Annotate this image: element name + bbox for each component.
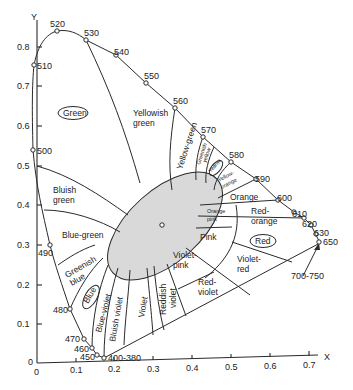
x-tick-0.7: 0.7 (303, 360, 316, 370)
region-pink: Pink (200, 232, 217, 242)
region-red-violet-2: violet (198, 287, 218, 297)
wl-550: 550 (144, 71, 159, 81)
region-bluish-green-1: Bluish (53, 185, 76, 195)
wl-600: 600 (277, 193, 292, 203)
region-red-violet-1: Red- (198, 277, 217, 287)
wl-490: 490 (38, 248, 53, 258)
region-violet-pink-2: pink (173, 260, 189, 270)
wl-560: 560 (173, 96, 188, 106)
wl-580: 580 (229, 150, 244, 160)
region-red-orange-1: Red- (251, 206, 270, 216)
region-orange: Orange (230, 192, 259, 202)
region-violet-pink-1: Violet- (173, 250, 197, 260)
x-axis-label: X (324, 352, 330, 362)
y-tick-0.8: 0.8 (17, 42, 30, 52)
y-tick-0.5: 0.5 (17, 161, 30, 171)
x-tick-0.1: 0.1 (70, 365, 83, 375)
x-tick-0.6: 0.6 (264, 361, 277, 371)
region-bluish-green-2: green (53, 195, 75, 205)
wl-610: 610 (292, 209, 307, 219)
wl-540: 540 (114, 47, 129, 57)
x-tick-0.2: 0.2 (108, 364, 121, 374)
region-yellowish-green-2: green (133, 118, 155, 128)
y-axis-label: Y (31, 12, 37, 22)
region-violet: Violet (136, 295, 150, 318)
wl-520: 520 (50, 19, 65, 29)
y-tick-0.3: 0.3 (17, 240, 30, 250)
white-point-marker (160, 223, 164, 227)
y-tick-0.7: 0.7 (17, 81, 30, 91)
wl-530: 530 (84, 28, 99, 38)
y-tick-0: 0 (28, 357, 33, 367)
region-red: Red (255, 236, 271, 246)
wl-480: 480 (53, 305, 68, 315)
x-tick-0: 0 (34, 367, 39, 377)
wl-700-750: 700-750 (291, 271, 324, 281)
region-blue: Blue (81, 285, 98, 305)
region-violet-red-1: Violet- (237, 254, 261, 264)
y-tick-0.4: 0.4 (17, 200, 30, 210)
wl-570: 570 (201, 125, 216, 135)
wl-380: 400-380 (108, 353, 141, 363)
wl-460: 460 (74, 344, 89, 354)
y-tick-0.6: 0.6 (17, 121, 30, 131)
region-violet-red-2: red (237, 264, 250, 274)
region-orange-pink-1: Orange (207, 208, 225, 214)
region-red-orange-2: orange (251, 216, 278, 226)
region-orange-pink-2: pink (207, 216, 217, 222)
wl-590: 590 (255, 174, 270, 184)
x-axis: X 0 0.1 0.2 0.3 0.4 0.5 0.6 0.7 (34, 351, 330, 377)
wl-510: 510 (37, 61, 52, 71)
region-reddish-violet-2: violet (168, 288, 178, 308)
x-tick-0.4: 0.4 (186, 363, 199, 373)
y-tick-0.2: 0.2 (17, 280, 30, 290)
wl-470: 470 (65, 334, 80, 344)
wl-500: 500 (37, 146, 52, 156)
wl-650: 650 (323, 237, 338, 247)
white-point-region (89, 152, 241, 299)
y-tick-0.1: 0.1 (17, 319, 30, 329)
cie-chromaticity-diagram: Y 0.8 0.7 0.6 0.5 0.4 0.3 0.2 0.1 0 X 0 … (0, 0, 353, 390)
region-blue-green: Blue-green (62, 230, 104, 240)
region-yellowish-green-1: Yellowish (133, 108, 168, 118)
region-green: Green (63, 108, 87, 118)
x-tick-0.5: 0.5 (225, 362, 238, 372)
x-tick-0.3: 0.3 (147, 364, 160, 374)
region-reddish-violet-1: Reddish (158, 284, 168, 315)
